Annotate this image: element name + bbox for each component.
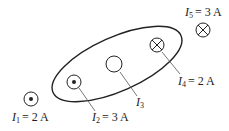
wire-i1-dot-icon (24, 92, 38, 106)
wire-i4-cross-icon (150, 38, 164, 52)
wire-i5-cross-icon (196, 23, 210, 37)
ampere-loop-diagram: I1= 2 A I2= 3 A I3 I4= 2 A I5= 3 A (0, 0, 229, 131)
label-i5: I5= 3 A (184, 5, 222, 20)
label-i1: I1= 2 A (11, 110, 49, 125)
label-i4: I4= 2 A (177, 74, 215, 89)
amperian-loop (42, 11, 192, 117)
wire-i3-empty-icon (106, 56, 122, 72)
label-i3: I3 (135, 95, 144, 110)
leader-line-i4 (162, 52, 180, 74)
leader-line-i3 (120, 72, 137, 96)
wire-i2-dot-icon (67, 75, 81, 89)
label-i2: I2= 3 A (91, 110, 129, 125)
